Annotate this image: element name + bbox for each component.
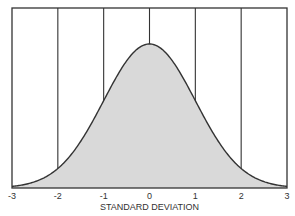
x-axis-ticks: -3-2-10123 xyxy=(8,191,290,201)
x-tick-label: 0 xyxy=(147,191,152,201)
x-tick-label: 2 xyxy=(239,191,244,201)
curve-area-fill xyxy=(12,44,287,188)
x-tick-label: -2 xyxy=(54,191,62,201)
x-tick-label: -1 xyxy=(100,191,108,201)
x-tick-label: -3 xyxy=(8,191,16,201)
x-tick-label: 3 xyxy=(284,191,289,201)
x-tick-label: 1 xyxy=(193,191,198,201)
bell-curve-chart: -3-2-10123 STANDARD DEVIATION xyxy=(0,0,295,216)
x-axis-label: STANDARD DEVIATION xyxy=(100,202,199,212)
